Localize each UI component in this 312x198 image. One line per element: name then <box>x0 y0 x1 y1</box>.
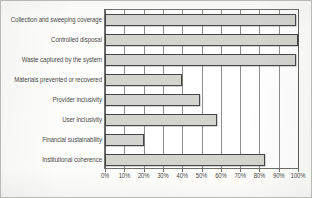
axis-tick <box>182 169 183 172</box>
bar <box>105 74 182 86</box>
value-axis: 0%10%20%30%40%50%60%70%80%90%100% <box>104 169 299 191</box>
axis-tick <box>144 169 145 172</box>
axis-tick-label: 70% <box>234 173 245 181</box>
axis-tick-label: 50% <box>196 173 207 181</box>
axis-tick-label: 0% <box>101 173 109 181</box>
bar <box>105 34 298 46</box>
category-label: Financial sustainability <box>3 135 102 143</box>
bar <box>105 134 144 146</box>
category-axis-labels: Collection and sweeping coverageControll… <box>3 9 102 169</box>
category-label: Institutional coherence <box>3 155 102 163</box>
axis-tick <box>202 169 203 172</box>
category-label: Waste captured by the system <box>3 55 102 63</box>
horizontal-bar-chart: Collection and sweeping coverageControll… <box>1 1 311 197</box>
axis-tick-label: 20% <box>138 173 149 181</box>
axis-tick-label: 60% <box>215 173 226 181</box>
axis-tick <box>105 169 106 172</box>
category-label: Provider inclusivity <box>3 95 102 103</box>
category-label: User inclusivity <box>3 115 102 123</box>
bar <box>105 114 217 126</box>
category-label: Materials prevented or recovered <box>3 75 102 83</box>
axis-tick <box>259 169 260 172</box>
category-label: Controlled disposal <box>3 35 102 43</box>
gridline-100pct <box>298 10 299 168</box>
axis-tick-label: 10% <box>119 173 130 181</box>
bar-series <box>105 10 298 168</box>
bar <box>105 54 296 66</box>
axis-tick <box>298 169 299 172</box>
axis-tick <box>240 169 241 172</box>
axis-tick-label: 80% <box>254 173 265 181</box>
bar <box>105 94 200 106</box>
axis-tick-label: 100% <box>291 173 305 181</box>
axis-tick-label: 90% <box>273 173 284 181</box>
bar <box>105 154 265 166</box>
category-label: Collection and sweeping coverage <box>3 15 102 23</box>
axis-tick <box>221 169 222 172</box>
bar <box>105 14 296 26</box>
chart-figure: Collection and sweeping coverageControll… <box>0 0 312 198</box>
plot-area <box>104 9 299 169</box>
axis-tick-label: 30% <box>157 173 168 181</box>
axis-tick <box>279 169 280 172</box>
axis-tick <box>163 169 164 172</box>
axis-tick <box>124 169 125 172</box>
axis-tick-label: 40% <box>177 173 188 181</box>
